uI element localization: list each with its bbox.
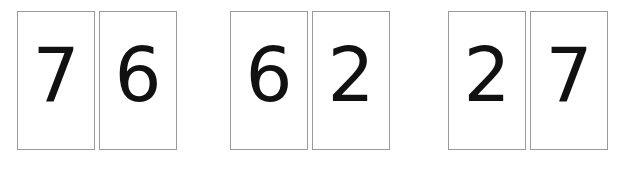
card-digit: 6 — [245, 38, 292, 112]
card-group-3: 2 7 — [448, 11, 608, 152]
number-card[interactable]: 6 — [230, 11, 308, 150]
card-digit: 7 — [545, 38, 592, 112]
card-group-1: 7 6 — [17, 11, 177, 152]
number-card-scene: 7 6 6 2 2 7 — [0, 0, 631, 169]
number-card[interactable]: 2 — [312, 11, 390, 150]
card-digit: 2 — [327, 38, 374, 112]
number-card[interactable]: 6 — [99, 11, 177, 150]
number-card[interactable]: 2 — [448, 11, 526, 150]
card-digit: 6 — [114, 38, 161, 112]
card-digit: 2 — [463, 38, 510, 112]
number-card[interactable]: 7 — [530, 11, 608, 150]
card-digit: 7 — [32, 38, 79, 112]
number-card[interactable]: 7 — [17, 11, 95, 150]
card-group-2: 6 2 — [230, 11, 390, 152]
